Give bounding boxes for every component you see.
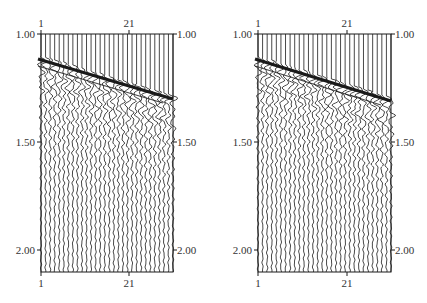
seismic-panel-right: 1 21 1 21 1.00 1.50 2.00 1.00 1.50 2.00: [0, 0, 427, 303]
right-tick-label-1-50: 1.50: [395, 137, 414, 148]
top-tick-label-21: 21: [337, 18, 357, 29]
right-tick-label-1-00: 1.00: [395, 29, 414, 40]
bottom-tick-label-21: 21: [337, 278, 357, 289]
wiggle-plot-right: [0, 0, 427, 303]
bottom-tick-label-1: 1: [248, 278, 268, 289]
left-tick-label-2-00: 2.00: [220, 245, 252, 256]
right-tick-label-2-00: 2.00: [395, 245, 414, 256]
left-tick-label-1-00: 1.00: [220, 29, 252, 40]
left-tick-label-1-50: 1.50: [220, 137, 252, 148]
